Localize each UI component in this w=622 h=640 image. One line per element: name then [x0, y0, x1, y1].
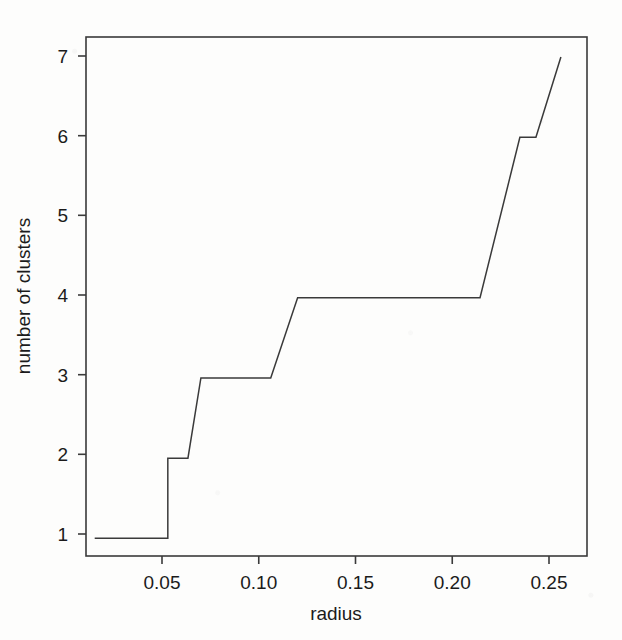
y-tick-label-6: 6 — [57, 126, 68, 147]
y-axis-tick-labels: 7 6 5 4 3 2 1 — [57, 46, 68, 545]
plot-frame — [86, 37, 587, 556]
y-tick-label-5: 5 — [57, 205, 68, 226]
x-axis-tick-labels: 0.05 0.10 0.15 0.20 0.25 — [144, 572, 568, 593]
y-tick-label-3: 3 — [57, 365, 68, 386]
y-axis-ticks — [78, 56, 86, 534]
y-axis-title: number of clusters — [13, 218, 34, 374]
x-axis-ticks — [162, 556, 549, 564]
x-tick-label-0.05: 0.05 — [144, 572, 181, 593]
x-tick-label-0.20: 0.20 — [434, 572, 471, 593]
y-tick-label-2: 2 — [57, 444, 68, 465]
y-tick-label-1: 1 — [57, 524, 68, 545]
x-tick-label-0.15: 0.15 — [337, 572, 374, 593]
cluster-step-line — [95, 57, 561, 538]
chart-figure: 7 6 5 4 3 2 1 0.05 0.10 0.15 0.20 0.25 r… — [0, 0, 622, 640]
x-tick-label-0.25: 0.25 — [531, 572, 568, 593]
y-tick-label-4: 4 — [57, 285, 68, 306]
y-tick-label-7: 7 — [57, 46, 68, 67]
x-tick-label-0.10: 0.10 — [240, 572, 277, 593]
line-chart-plot: 7 6 5 4 3 2 1 0.05 0.10 0.15 0.20 0.25 r… — [0, 0, 622, 640]
x-axis-title: radius — [310, 603, 362, 624]
